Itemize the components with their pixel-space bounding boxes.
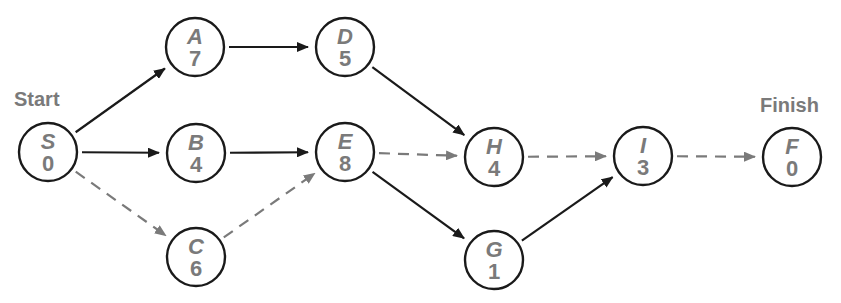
start-label: Start [14, 88, 60, 110]
node-duration: 3 [637, 155, 649, 180]
node-i: I3 [614, 127, 672, 185]
edge-e-to-h [379, 153, 457, 156]
node-h: H4 [465, 128, 523, 186]
node-duration: 8 [339, 151, 351, 176]
edge-h-to-i [528, 156, 606, 157]
edge-s-to-b [82, 152, 159, 153]
node-e: E8 [316, 123, 374, 181]
network-diagram: S0A7B4C6D5E8H4G1I3F0 Start Finish [0, 0, 841, 303]
edge-e-to-g [373, 172, 465, 238]
node-duration: 1 [488, 259, 500, 284]
edge-i-to-f [677, 156, 755, 157]
node-duration: 4 [190, 152, 203, 177]
edge-g-to-i [522, 177, 613, 240]
node-duration: 7 [189, 46, 201, 71]
node-a: A7 [166, 18, 224, 76]
edge-s-to-c [76, 172, 166, 236]
edge-b-to-e [230, 152, 308, 153]
edge-d-to-h [372, 67, 464, 135]
node-d: D5 [316, 18, 374, 76]
node-f: F0 [763, 128, 821, 186]
node-duration: 5 [339, 46, 351, 71]
node-duration: 0 [42, 151, 54, 176]
finish-label: Finish [760, 94, 819, 116]
node-s: S0 [19, 123, 77, 181]
node-c: C6 [167, 228, 225, 286]
edge-c-to-e [224, 173, 315, 237]
node-duration: 4 [488, 156, 501, 181]
node-duration: 0 [786, 156, 798, 181]
node-g: G1 [465, 231, 523, 289]
node-duration: 6 [190, 256, 202, 281]
edge-s-to-a [76, 69, 165, 133]
node-b: B4 [167, 124, 225, 182]
